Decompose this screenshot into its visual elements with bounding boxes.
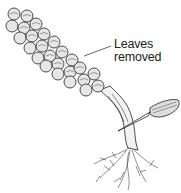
callout-leader-line	[84, 46, 111, 56]
brussels-sprout-stalk-drawing	[0, 0, 181, 193]
roots	[94, 148, 158, 190]
sprouts	[6, 8, 104, 96]
callout-line-2: removed	[114, 51, 161, 64]
callout-label: Leaves removed	[114, 38, 161, 64]
stem	[100, 86, 138, 150]
